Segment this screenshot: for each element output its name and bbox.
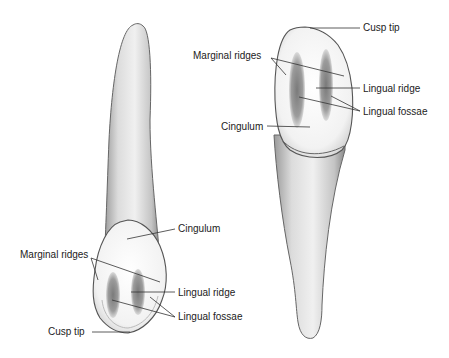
label-left-lingual-ridge: Lingual ridge bbox=[178, 287, 235, 299]
label-right-marginal-ridges: Marginal ridges bbox=[193, 50, 261, 62]
label-left-lingual-fossae: Lingual fossae bbox=[178, 311, 243, 323]
label-right-lingual-fossae: Lingual fossae bbox=[363, 106, 428, 118]
diagram-stage: Cusp tip Marginal ridges Lingual ridge L… bbox=[0, 0, 449, 358]
right-tooth bbox=[274, 27, 353, 338]
label-left-cusp-tip: Cusp tip bbox=[48, 326, 85, 338]
left-tooth bbox=[93, 24, 166, 333]
label-right-cusp-tip: Cusp tip bbox=[363, 22, 400, 34]
label-right-lingual-ridge: Lingual ridge bbox=[363, 83, 420, 95]
label-right-cingulum: Cingulum bbox=[221, 121, 263, 133]
left-crown bbox=[93, 220, 166, 333]
right-root bbox=[274, 135, 345, 338]
label-left-marginal-ridges: Marginal ridges bbox=[20, 249, 88, 261]
label-left-cingulum: Cingulum bbox=[178, 223, 220, 235]
right-crown bbox=[275, 27, 353, 158]
left-fossa-mesial bbox=[106, 272, 120, 318]
right-fossa-distal bbox=[319, 49, 333, 121]
